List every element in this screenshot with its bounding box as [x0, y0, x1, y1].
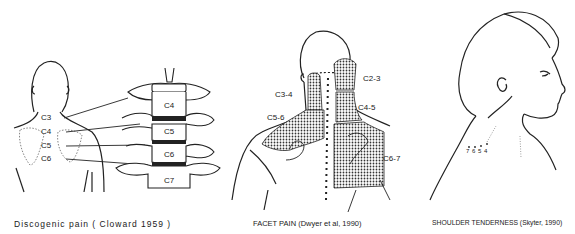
label-c6: C6 [41, 154, 51, 163]
vertebra-c7: C7 [164, 176, 174, 185]
vertebra-c6: C6 [164, 150, 174, 159]
label-c5: C5 [41, 141, 51, 150]
point-7: 7 [466, 148, 469, 154]
label-c4-5: C4-5 [358, 103, 375, 112]
label-c3: C3 [41, 113, 51, 122]
caption-facet: FACET PAIN (Dwyer et al, 1990) [253, 219, 362, 228]
label-c3-4: C3-4 [275, 90, 292, 99]
side-profile-figure [430, 12, 565, 200]
caption-shoulder: SHOULDER TENDERNESS (Skyter, 1990) [432, 219, 562, 226]
label-c5-6: C5-6 [267, 113, 284, 122]
region-c3-4 [308, 73, 322, 110]
label-c4: C4 [41, 127, 51, 136]
point-4: 4 [484, 148, 487, 154]
vertebra-c4: C4 [164, 101, 174, 110]
region-c6-7 [334, 122, 384, 188]
caption-discogenic: Discogenic pain ( Cloward 1959 ) [14, 219, 171, 229]
discogenic-back-figure [14, 62, 104, 192]
region-c2-3 [334, 59, 356, 90]
point-6: 6 [472, 148, 475, 154]
label-c2-3: C2-3 [363, 74, 380, 83]
label-c6-7: C6-7 [383, 154, 400, 163]
point-5: 5 [478, 148, 481, 154]
vertebra-c5: C5 [164, 127, 174, 136]
diagram-drawing [0, 0, 575, 234]
